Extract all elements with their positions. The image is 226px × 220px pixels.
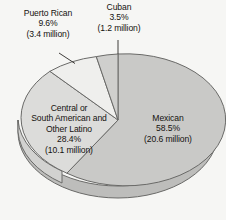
label-mexican: Mexican 58.5% (20.6 million)	[123, 113, 213, 144]
label-central-south-american: Central or South American and Other Lati…	[14, 103, 124, 155]
label-central-name-line3: Other Latino	[14, 124, 124, 134]
label-puerto-rican: Puerto Rican 9.6% (3.4 million)	[2, 8, 94, 39]
label-mexican-count: (20.6 million)	[123, 134, 213, 144]
label-mexican-percent: 58.5%	[123, 123, 213, 133]
leader-line-puerto-rican	[59, 53, 75, 64]
label-central-name-line2: South American and	[14, 113, 124, 123]
label-cuban-percent: 3.5%	[84, 12, 154, 22]
label-cuban-count: (1.2 million)	[84, 23, 154, 33]
label-puerto-rican-count: (3.4 million)	[2, 29, 94, 39]
label-cuban-name: Cuban	[84, 2, 154, 12]
label-puerto-rican-percent: 9.6%	[2, 18, 94, 28]
label-central-percent: 28.4%	[14, 134, 124, 144]
label-central-count: (10.1 million)	[14, 145, 124, 155]
label-mexican-name: Mexican	[123, 113, 213, 123]
label-central-name-line1: Central or	[14, 103, 124, 113]
label-puerto-rican-name: Puerto Rican	[2, 8, 94, 18]
label-cuban: Cuban 3.5% (1.2 million)	[84, 2, 154, 33]
pie-chart: Puerto Rican 9.6% (3.4 million) Cuban 3.…	[0, 0, 226, 220]
